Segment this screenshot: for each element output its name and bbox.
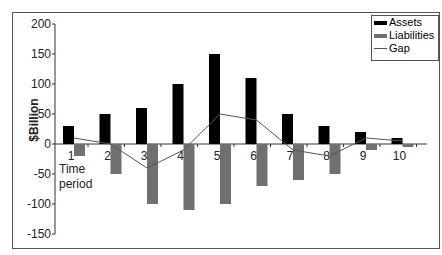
y-tick-label: 100	[31, 77, 51, 91]
legend-item-assets: Assets	[372, 16, 438, 29]
assets-bar	[63, 126, 74, 144]
liabilities-bar	[366, 144, 377, 150]
legend: Assets Liabilities Gap	[371, 15, 439, 61]
assets-bar	[173, 84, 184, 144]
legend-label: Assets	[389, 16, 422, 29]
assets-bar	[136, 108, 147, 144]
assets-bar	[282, 114, 293, 144]
assets-bar	[246, 78, 257, 144]
liabilities-bar	[403, 144, 414, 147]
assets-bar	[209, 54, 220, 144]
y-tick-label: 150	[31, 47, 51, 61]
x-tick-label: 5	[214, 149, 221, 163]
liabilities-bar	[330, 144, 341, 174]
y-tick-label: 0	[44, 137, 51, 151]
liabilities-bar	[293, 144, 304, 180]
assets-swatch-icon	[374, 21, 387, 25]
legend-label: Gap	[389, 42, 410, 55]
liabilities-swatch-icon	[374, 34, 387, 38]
x-tick-label: 2	[104, 149, 111, 163]
gap-line	[74, 114, 403, 168]
y-tick-label: 200	[31, 17, 51, 31]
liabilities-bar	[111, 144, 122, 174]
liabilities-bar	[74, 144, 85, 156]
gap-line-icon	[374, 48, 387, 49]
y-tick-label: -100	[27, 197, 51, 211]
x-tick-label: 3	[141, 149, 148, 163]
y-tick-label: -150	[27, 227, 51, 241]
x-tick-label: 1	[68, 149, 75, 163]
x-axis-label: period	[59, 177, 92, 191]
liabilities-bar	[147, 144, 158, 204]
assets-bar	[100, 114, 111, 144]
liabilities-bar	[184, 144, 195, 210]
x-tick-label: 10	[393, 149, 407, 163]
assets-bar	[319, 126, 330, 144]
x-axis-label: Time	[59, 162, 86, 176]
x-tick-label: 6	[250, 149, 257, 163]
liabilities-bar	[220, 144, 231, 204]
liabilities-bar	[257, 144, 268, 186]
legend-item-liabilities: Liabilities	[372, 29, 438, 42]
y-axis-label: $Billion	[27, 98, 41, 141]
x-tick-label: 7	[287, 149, 294, 163]
x-tick-label: 9	[360, 149, 367, 163]
legend-item-gap: Gap	[372, 42, 438, 55]
legend-label: Liabilities	[389, 29, 434, 42]
y-tick-label: -50	[34, 167, 52, 181]
